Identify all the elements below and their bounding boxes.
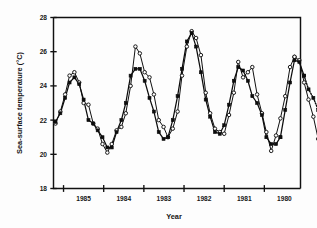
data-series-lines: [56, 31, 317, 159]
data-point: [227, 113, 231, 117]
data-point: [92, 122, 95, 125]
data-point: [124, 112, 128, 116]
data-point: [148, 96, 151, 99]
y-axis-title: Sea-surface temperature (°C): [15, 51, 24, 153]
data-point: [106, 151, 110, 155]
data-point: [110, 142, 114, 146]
y-tick-label-20: 20: [40, 151, 48, 158]
data-point: [307, 88, 310, 91]
data-point: [68, 74, 72, 78]
data-point: [312, 115, 316, 119]
data-point: [138, 52, 142, 56]
data-point: [143, 79, 146, 82]
data-point: [232, 91, 236, 95]
data-point: [143, 70, 147, 74]
data-point: [303, 74, 306, 77]
data-point: [255, 93, 259, 97]
data-point: [302, 81, 306, 85]
data-point: [78, 83, 81, 86]
data-point: [162, 125, 166, 129]
data-point: [68, 81, 71, 84]
data-point: [279, 117, 283, 121]
data-point: [208, 112, 212, 116]
y-tick-label-24: 24: [40, 82, 48, 89]
data-point: [260, 113, 263, 116]
data-point: [134, 45, 138, 49]
data-point: [59, 112, 62, 115]
x-tick-label-1981: 1981: [237, 195, 252, 202]
data-point: [242, 69, 245, 72]
data-point: [270, 143, 273, 146]
data-point: [275, 143, 278, 146]
data-point: [283, 94, 287, 98]
data-point: [274, 134, 278, 138]
data-point: [199, 71, 202, 74]
data-point: [87, 119, 90, 122]
data-point: [284, 108, 287, 111]
data-point: [269, 149, 273, 153]
data-point: [134, 67, 137, 70]
data-point: [228, 103, 231, 106]
data-point: [194, 36, 198, 40]
data-point: [265, 136, 268, 139]
y-tick-label-22: 22: [40, 117, 48, 124]
sst-time-series-chart: 182022242628 198519841983198219811980 Ye…: [0, 0, 317, 228]
data-point: [87, 103, 91, 107]
data-point: [171, 119, 174, 122]
data-point: [289, 81, 292, 84]
data-point: [101, 136, 104, 139]
data-point: [279, 136, 282, 139]
data-point: [213, 131, 216, 134]
data-point: [232, 79, 235, 82]
data-point: [218, 132, 221, 135]
data-point: [204, 91, 208, 95]
data-point: [120, 119, 123, 122]
x-tick-label-1980: 1980: [277, 195, 292, 202]
data-point: [251, 65, 255, 69]
data-point: [73, 70, 77, 74]
data-point: [298, 60, 301, 63]
data-point: [157, 118, 161, 122]
data-point: [190, 31, 193, 34]
data-point: [246, 70, 250, 74]
data-point: [213, 127, 217, 131]
data-point: [129, 84, 133, 88]
x-tick-label-1982: 1982: [197, 195, 212, 202]
data-point: [63, 93, 67, 97]
data-point: [120, 125, 124, 129]
data-point: [152, 110, 155, 113]
data-point: [288, 65, 292, 69]
data-point: [251, 95, 254, 98]
x-tick-label-1983: 1983: [157, 195, 172, 202]
data-point: [101, 142, 105, 146]
data-point: [237, 60, 241, 64]
data-point: [96, 129, 99, 132]
data-point: [256, 102, 259, 105]
x-axis-title: Year: [166, 212, 182, 221]
data-point: [237, 66, 240, 69]
x-tick-label-1985: 1985: [76, 195, 91, 202]
data-point: [204, 98, 207, 101]
data-point: [82, 98, 85, 101]
data-point: [152, 93, 156, 97]
data-point: [265, 130, 269, 134]
data-point: [195, 45, 198, 48]
data-point: [82, 101, 86, 105]
data-point: [185, 45, 189, 49]
data-point: [162, 137, 165, 140]
data-point: [223, 124, 226, 127]
data-point: [246, 79, 249, 82]
plot-frame: [54, 18, 301, 189]
y-tick-label-28: 28: [40, 14, 48, 21]
data-point: [176, 95, 179, 98]
data-point: [138, 67, 141, 70]
data-point: [222, 132, 226, 136]
data-point: [176, 110, 180, 114]
data-point: [124, 102, 127, 105]
data-point: [106, 146, 109, 149]
data-point: [181, 67, 184, 70]
data-point: [166, 136, 169, 139]
figure-container: 182022242628 198519841983198219811980 Ye…: [0, 0, 317, 228]
data-point: [293, 59, 296, 62]
series-line-open-circles-part2: [294, 57, 317, 160]
